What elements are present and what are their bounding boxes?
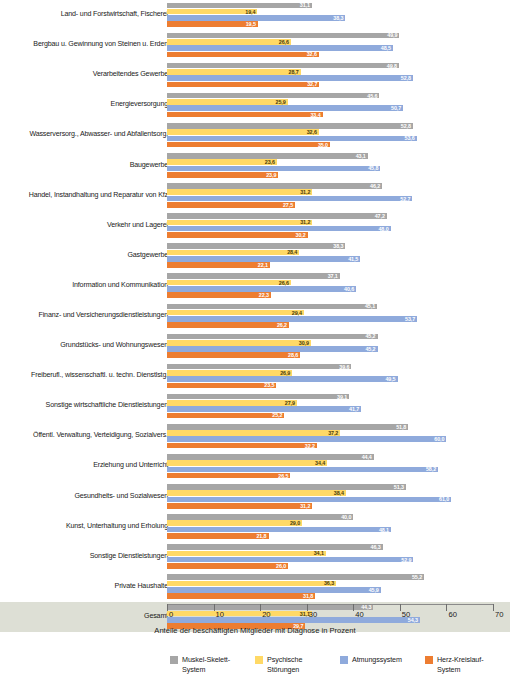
chart-row: Private Haushalte55,236,345,931,8	[0, 572, 510, 602]
bar-value-label: 30,2	[296, 232, 306, 238]
bar-fill	[167, 443, 317, 449]
bar-value-label: 52,8	[401, 123, 411, 129]
bar-3: 33,4	[167, 112, 493, 118]
axis-tick-label: 0	[169, 610, 173, 619]
bar-3: 26,2	[167, 322, 493, 328]
bar-value-label: 46,3	[371, 544, 381, 550]
bar-value-label: 23,9	[266, 172, 276, 178]
bar-0: 31,1	[167, 3, 493, 9]
bar-group: 37,126,640,622,3	[167, 273, 493, 298]
plot-area: Land- und Forstwirtschaft, Fischerei31,1…	[0, 0, 510, 604]
chart-row: Information und Kommunikation37,126,640,…	[0, 271, 510, 301]
bar-value-label: 31,2	[300, 503, 310, 509]
bar-fill	[167, 172, 278, 178]
bar-value-label: 31,2	[300, 219, 310, 225]
bar-fill	[167, 123, 413, 129]
bar-value-label: 48,1	[379, 527, 389, 533]
bar-2: 60,0	[167, 436, 493, 442]
bar-value-label: 37,1	[328, 273, 338, 279]
category-label: Öffentl. Verwaltung, Verteidigung, Sozia…	[0, 432, 168, 440]
bar-fill	[167, 202, 295, 208]
bar-fill	[167, 232, 308, 238]
bar-group: 45,230,945,228,6	[167, 334, 493, 359]
bar-0: 44,4	[167, 454, 493, 460]
legend-label-line2: System	[437, 665, 483, 675]
legend-label: PsychischeStörungen	[267, 655, 302, 676]
bar-fill	[167, 581, 336, 587]
axis-line	[167, 604, 493, 605]
bar-fill	[167, 262, 270, 268]
legend-item[interactable]: Atmungssystem	[340, 655, 425, 687]
bar-group: 39,127,941,725,2	[167, 394, 493, 419]
axis-title: Anteile der beschäftigten Mitglieder mit…	[0, 626, 510, 635]
bar-1: 19,4	[167, 9, 493, 15]
chart-row: Land- und Forstwirtschaft, Fischerei31,1…	[0, 0, 510, 30]
legend-label-line1: Psychische	[267, 655, 302, 665]
bar-group: 52,832,653,635,0	[167, 123, 493, 148]
legend-item[interactable]: PsychischeStörungen	[255, 655, 340, 687]
bar-3: 23,5	[167, 383, 493, 389]
bar-3: 19,5	[167, 21, 493, 27]
bar-value-label: 26,6	[279, 39, 289, 45]
bar-2: 53,7	[167, 316, 493, 322]
bar-fill	[167, 21, 258, 27]
bar-fill	[167, 383, 276, 389]
bar-value-label: 48,5	[381, 45, 391, 51]
bar-0: 49,8	[167, 63, 493, 69]
bar-fill	[167, 63, 399, 69]
bar-fill	[167, 364, 351, 370]
bar-fill	[167, 136, 417, 142]
axis-tick	[353, 604, 354, 611]
bar-value-label: 26,9	[280, 370, 290, 376]
chart-row: Öffentl. Verwaltung, Verteidigung, Sozia…	[0, 421, 510, 451]
bar-fill	[167, 159, 277, 165]
bar-value-label: 26,6	[279, 280, 289, 286]
bar-fill	[167, 436, 446, 442]
bar-value-label: 45,8	[368, 165, 378, 171]
bar-0: 47,2	[167, 213, 493, 219]
bar-value-label: 32,6	[307, 51, 317, 57]
chart-row: Baugewerbe43,123,645,823,9	[0, 150, 510, 180]
bar-fill	[167, 273, 340, 279]
axis-tick	[446, 604, 447, 611]
category-label: Gesundheits- und Sozialwesen	[0, 493, 168, 501]
legend-item[interactable]: Muskel-Skelett-System	[170, 655, 255, 687]
category-label: Verarbeitendes Gewerbe	[0, 71, 168, 79]
bar-value-label: 22,1	[258, 262, 268, 268]
bar-2: 41,5	[167, 256, 493, 262]
bar-fill	[167, 304, 377, 310]
bar-1: 26,6	[167, 39, 493, 45]
chart-row: Freiberufl., wissenschaftl. u. techn. Di…	[0, 361, 510, 391]
bar-1: 30,9	[167, 340, 493, 346]
chart-row: Erziehung und Unterricht44,434,458,226,5	[0, 451, 510, 481]
bar-value-label: 28,6	[288, 352, 298, 358]
bar-fill	[167, 82, 319, 88]
legend-label-line1: Muskel-Skelett-	[182, 655, 230, 665]
bar-value-label: 51,8	[396, 424, 406, 430]
bar-value-label: 43,1	[356, 153, 366, 159]
bar-value-label: 32,2	[305, 443, 315, 449]
bar-fill	[167, 9, 257, 15]
bar-value-label: 45,9	[369, 587, 379, 593]
bar-value-label: 55,2	[412, 574, 422, 580]
bar-value-label: 52,9	[401, 557, 411, 563]
bar-3: 32,2	[167, 443, 493, 449]
bar-value-label: 19,5	[246, 21, 256, 27]
bar-2: 50,7	[167, 105, 493, 111]
bar-fill	[167, 346, 378, 352]
bar-0: 46,3	[167, 544, 493, 550]
bar-fill	[167, 460, 327, 466]
category-label: Finanz- und Versicherungsdienstleistunge…	[0, 312, 168, 320]
bar-3: 30,2	[167, 232, 493, 238]
bar-fill	[167, 316, 417, 322]
bar-fill	[167, 557, 413, 563]
bar-value-label: 58,2	[426, 466, 436, 472]
bar-1: 34,4	[167, 460, 493, 466]
legend-item[interactable]: Herz-Kreislauf-System	[425, 655, 510, 687]
bar-group: 49,828,752,832,7	[167, 63, 493, 88]
bar-3: 31,2	[167, 503, 493, 509]
category-label: Energieversorgung	[0, 101, 168, 109]
chart-row: Grundstücks- und Wohnungswesen45,230,945…	[0, 331, 510, 361]
bar-value-label: 25,2	[272, 412, 282, 418]
bar-2: 53,6	[167, 136, 493, 142]
